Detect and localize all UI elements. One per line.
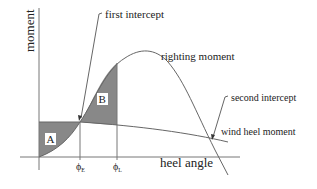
phi-e-label: ϕE (76, 161, 85, 173)
wind-heel-moment-label: wind heel moment (221, 126, 296, 137)
first-intercept-label: first intercept (105, 8, 164, 20)
second-intercept-tick (225, 96, 228, 97)
area-a-label: A (47, 133, 55, 145)
area-b-label: B (99, 93, 106, 105)
phi-l-label: ϕL (113, 161, 122, 173)
righting-moment-label: righting moment (161, 50, 235, 62)
x-axis-label: heel angle (160, 155, 213, 170)
stability-diagram: moment heel angle first intercept righti… (0, 0, 317, 189)
second-intercept-label: second intercept (231, 92, 296, 103)
y-axis-label: moment (22, 9, 37, 52)
first-intercept-tick (99, 13, 102, 14)
